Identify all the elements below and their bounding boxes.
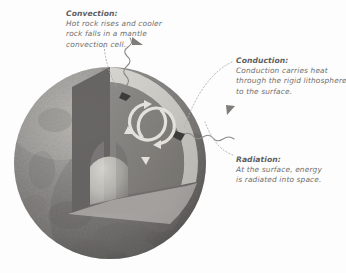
planet-cutaway-wedge	[68, 67, 198, 224]
callout-convection: Convection: Hot rock rises and cooler ro…	[66, 9, 162, 50]
callout-conduction-title: Conduction:	[236, 56, 346, 66]
planet-heat-transfer-figure: Convection: Hot rock rises and cooler ro…	[0, 0, 346, 273]
callout-conduction-line-2: through the rigid lithosphere	[236, 76, 346, 86]
callout-radiation-line-2: is radiated into space.	[236, 175, 322, 185]
callout-radiation-title: Radiation:	[236, 155, 322, 165]
callout-convection-line-3: convection cell.	[66, 40, 162, 50]
callout-conduction-line-3: to the surface.	[236, 87, 346, 97]
callout-radiation-body: At the surface, energy is radiated into …	[236, 165, 322, 185]
callout-convection-title: Convection:	[66, 9, 162, 19]
callout-conduction-body: Conduction carries heat through the rigi…	[236, 66, 346, 97]
callout-convection-line-1: Hot rock rises and cooler	[66, 19, 162, 29]
callout-radiation-line-1: At the surface, energy	[236, 165, 322, 175]
callout-conduction: Conduction: Conduction carries heat thro…	[236, 56, 346, 97]
callout-radiation: Radiation: At the surface, energy is rad…	[236, 155, 322, 186]
callout-convection-body: Hot rock rises and cooler rock falls in …	[66, 19, 162, 50]
callout-convection-line-2: rock falls in a mantle	[66, 29, 162, 39]
leader-radiation	[205, 122, 233, 155]
callout-conduction-line-1: Conduction carries heat	[236, 66, 346, 76]
cutaway-planet-illustration	[0, 0, 346, 273]
